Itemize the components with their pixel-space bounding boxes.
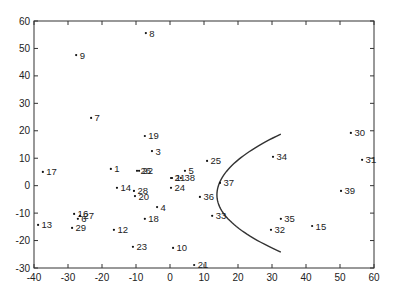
x-tick-label: -20 (95, 272, 110, 283)
data-point-label: 25 (211, 155, 222, 166)
data-point-label: 35 (284, 213, 295, 224)
y-tick-label: 60 (19, 16, 31, 27)
data-point-marker (71, 227, 73, 229)
data-point-label: 28 (137, 185, 148, 196)
data-point-label: 21 (198, 259, 209, 270)
x-tick-label: 10 (198, 272, 210, 283)
data-point-marker (350, 132, 352, 134)
data-point-label: 26 (141, 165, 152, 176)
y-tick-label: 50 (19, 43, 31, 54)
data-point-label: 18 (148, 213, 159, 224)
data-point-marker (219, 182, 221, 184)
y-tick-label: -30 (16, 263, 31, 274)
x-tick-label: -40 (27, 272, 42, 283)
scatter-plot: -40-30-20-100102030405060 -30-20-1001020… (0, 0, 393, 299)
data-point-marker (37, 224, 39, 226)
data-point-label: 1 (114, 163, 119, 174)
data-point-marker (132, 246, 134, 248)
data-point-label: 29 (76, 222, 87, 233)
data-point-label: 36 (203, 191, 214, 202)
y-tick-label: 40 (19, 70, 31, 81)
data-point-label: 37 (223, 177, 234, 188)
data-point-marker (75, 54, 77, 56)
data-point-marker (211, 215, 213, 217)
data-point-label: 30 (354, 127, 365, 138)
x-tick-label: 20 (232, 272, 244, 283)
data-point-marker (206, 160, 208, 162)
y-tick-label: 30 (19, 98, 31, 109)
decision-boundary-curve (217, 134, 281, 252)
data-point-marker (42, 171, 44, 173)
data-point-marker (171, 177, 173, 179)
data-point-marker (116, 187, 118, 189)
data-point-marker (340, 190, 342, 192)
data-point-marker (90, 117, 92, 119)
data-point-marker (199, 196, 201, 198)
x-tick-label: 40 (300, 272, 312, 283)
data-point-label: 9 (80, 50, 85, 61)
data-point-marker (145, 32, 147, 34)
data-point-marker (133, 190, 135, 192)
data-point-label: 31 (366, 154, 377, 165)
x-tick-label: 50 (334, 272, 346, 283)
data-point-marker (144, 135, 146, 137)
data-point-marker (193, 264, 195, 266)
data-point-label: 27 (83, 210, 94, 221)
data-point-marker (172, 247, 174, 249)
x-tick-label: 0 (167, 272, 173, 283)
data-point-marker (134, 195, 136, 197)
x-tick-label: -10 (129, 272, 144, 283)
data-point-marker (272, 156, 274, 158)
data-point-marker (136, 170, 138, 172)
x-tick-label: 60 (368, 272, 380, 283)
data-point-label: 23 (136, 241, 147, 252)
y-tick-label: -20 (16, 235, 31, 246)
data-point-label: 15 (316, 221, 327, 232)
data-point-label: 34 (277, 151, 288, 162)
data-point-label: 17 (46, 166, 57, 177)
data-point-marker (113, 229, 115, 231)
data-point-label: 19 (148, 130, 159, 141)
y-tick-label: 0 (24, 180, 30, 191)
data-point-label: 33 (216, 210, 227, 221)
data-point-label: 39 (345, 185, 356, 196)
x-tick-label: 30 (266, 272, 278, 283)
data-point-label: 10 (177, 242, 188, 253)
data-point-label: 32 (274, 224, 285, 235)
data-point-label: 13 (42, 219, 53, 230)
data-point-marker (311, 225, 313, 227)
data-point-label: 12 (117, 224, 128, 235)
data-point-label: 3 (155, 146, 160, 157)
data-point-marker (79, 215, 81, 217)
data-points: 1234567891011121314151617181920212223242… (37, 28, 376, 271)
y-tick-label: -10 (16, 208, 31, 219)
data-point-label: 4 (161, 202, 166, 213)
y-tick-label: 10 (19, 153, 31, 164)
y-tick-label: 20 (19, 125, 31, 136)
data-point-marker (170, 187, 172, 189)
data-point-marker (144, 218, 146, 220)
data-point-label: 38 (184, 172, 195, 183)
data-point-label: 7 (95, 112, 100, 123)
data-point-marker (361, 159, 363, 161)
data-point-marker (156, 206, 158, 208)
y-axis-ticks: -30-20-100102030405060 (16, 16, 374, 274)
data-point-label: 8 (149, 28, 154, 39)
data-point-label: 14 (120, 182, 131, 193)
x-tick-label: -30 (61, 272, 76, 283)
data-point-label: 24 (175, 182, 186, 193)
data-point-marker (73, 213, 75, 215)
data-point-marker (110, 168, 112, 170)
data-point-marker (280, 218, 282, 220)
data-point-marker (270, 229, 272, 231)
data-point-marker (180, 177, 182, 179)
data-point-marker (151, 150, 153, 152)
